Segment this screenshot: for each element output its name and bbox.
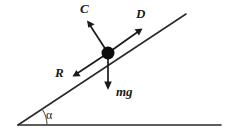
diagram-canvas: α C D R mg bbox=[0, 0, 235, 137]
force-label-C: C bbox=[80, 1, 89, 16]
force-label-D: D bbox=[135, 6, 146, 21]
force-label-R: R bbox=[54, 65, 64, 80]
force-mg-arrowhead bbox=[104, 82, 112, 91]
inclined-plane-force-diagram: α C D R mg bbox=[0, 0, 235, 137]
inclined-plane-line bbox=[18, 14, 186, 125]
force-D-arrowhead bbox=[135, 29, 143, 36]
force-label-mg: mg bbox=[116, 84, 133, 99]
angle-label-alpha: α bbox=[46, 108, 53, 122]
particle-dot bbox=[102, 47, 115, 60]
